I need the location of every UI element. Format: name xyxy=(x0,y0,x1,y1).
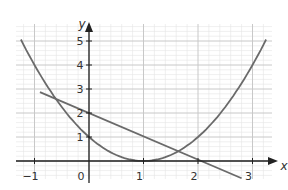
major-grid xyxy=(16,24,272,179)
tick-labels: −1123012345xy xyxy=(22,17,288,183)
x-tick-label: 2 xyxy=(191,170,198,183)
x-tick-label: 3 xyxy=(245,170,252,183)
y-tick-label: 1 xyxy=(77,131,84,144)
y-axis-arrow-icon xyxy=(85,22,93,32)
y-tick-label: 4 xyxy=(77,59,84,72)
origin-label: 0 xyxy=(78,170,85,183)
x-tick-label: −1 xyxy=(22,170,38,183)
y-axis-label: y xyxy=(77,17,86,31)
axes xyxy=(16,22,278,183)
y-tick-label: 3 xyxy=(77,83,84,96)
x-axis-label: x xyxy=(279,159,288,173)
x-tick-label: 1 xyxy=(136,170,143,183)
x-axis-arrow-icon xyxy=(268,157,278,165)
function-graph: −1123012345xy xyxy=(0,0,288,190)
straight-line xyxy=(40,92,242,178)
y-tick-label: 5 xyxy=(77,35,84,48)
y-tick-label: 2 xyxy=(77,107,84,120)
